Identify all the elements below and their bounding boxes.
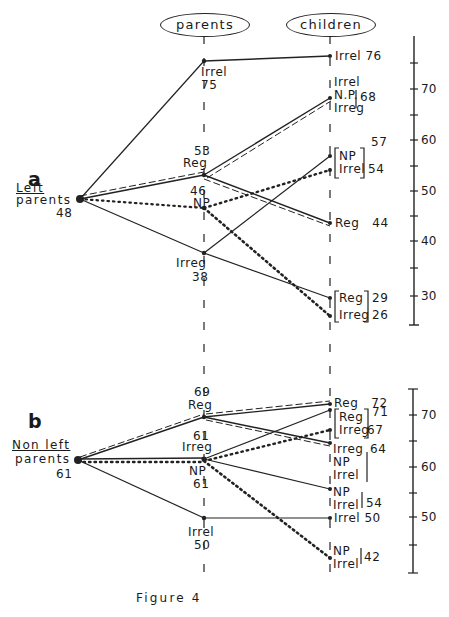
root-node-a <box>76 195 84 203</box>
panel-a-root-value: 48 <box>56 207 72 220</box>
b-parent-irrel-value: 50 <box>194 539 210 552</box>
parents-header: parents <box>160 13 250 37</box>
a-child-grp57-value: 57 <box>371 136 387 149</box>
a-axis-tick-60: 60 <box>421 133 436 147</box>
b-child-grp64-line3: Irrel <box>333 469 359 482</box>
a-child-grp26-value: 26 <box>372 309 388 322</box>
b-axis-tick-60: 60 <box>421 460 436 474</box>
b-axis-tick-70: 70 <box>421 408 436 422</box>
b-parent-irreg-label: Irreg <box>182 441 212 454</box>
panel-b-title-line1: Non left <box>12 438 70 453</box>
a-child-reg29-label: Reg <box>339 292 363 305</box>
b-child-grp67-value: 67 <box>367 424 383 437</box>
a-axis-tick-30: 30 <box>421 289 436 303</box>
a-child-irreg26-label: Irreg <box>339 309 369 322</box>
children-header: children <box>286 13 376 37</box>
b-parent-reg-label: Reg <box>188 399 212 412</box>
a-axis-tick-50: 50 <box>421 184 436 198</box>
a-axis-tick-70: 70 <box>421 82 436 96</box>
a-parent-reg-label: Reg <box>183 157 207 170</box>
panel-b-letter: b <box>28 410 42 432</box>
root-node-b <box>74 456 82 464</box>
a-parent-irrel-value: 75 <box>201 79 217 92</box>
a-axis-tick-40: 40 <box>421 234 436 248</box>
a-parent-irreg-value: 38 <box>192 271 208 284</box>
b-axis-tick-50: 50 <box>421 510 436 524</box>
a-parent-np-label: NP <box>193 197 210 210</box>
b-parent-np-value: 61 <box>193 478 209 491</box>
a-child-grp54-value: 54 <box>368 163 384 176</box>
b-child-grp42-value: 42 <box>364 551 380 564</box>
b-child-grp71-value: 71 <box>372 406 388 419</box>
a-child-grp29-value: 29 <box>372 292 388 305</box>
panel-b-root-value: 61 <box>56 468 72 481</box>
panel-b-title-line2: parents <box>15 452 70 467</box>
b-child-grp54-value: 54 <box>366 497 382 510</box>
a-child-irrel54-label: Irrel <box>339 163 365 176</box>
figure-4: parents children a Left parents 48 Irrel… <box>0 0 449 617</box>
a-child-grp68-value: 68 <box>360 91 376 104</box>
b-child-grp42-line2: Irrel <box>333 558 359 571</box>
a-child-irrel76: Irrel 76 <box>335 50 382 63</box>
a-child-reg44: Reg 44 <box>335 217 389 230</box>
a-parent-irreg-label: Irreg <box>176 257 206 270</box>
b-child-irrel50: Irrel 50 <box>334 512 381 525</box>
b-child-grp64-value: 64 <box>370 443 386 456</box>
figure-caption: Figure 4 <box>136 591 202 605</box>
b-child-irreg67-label: Irreg <box>339 424 369 437</box>
